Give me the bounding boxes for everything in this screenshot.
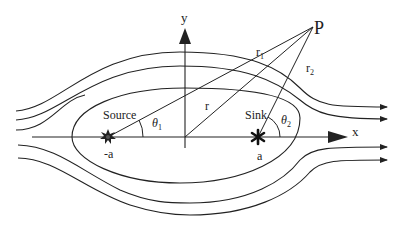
streamline-bottom-outer [18, 158, 387, 215]
sink-position-label: a [257, 149, 263, 163]
streamline-top-inner [16, 66, 387, 120]
streamline-bottom-inner [18, 145, 387, 203]
point-p-label: P [314, 18, 324, 38]
y-axis-label: y [181, 10, 188, 25]
r1-label: r1 [256, 45, 264, 61]
theta2-label: θ2 [281, 113, 291, 129]
angle-theta1-arc [139, 120, 143, 137]
x-axis-label: x [352, 124, 359, 139]
streamline-top-outer [16, 52, 387, 111]
angle-theta2-arc [268, 117, 280, 137]
r2-label: r2 [306, 61, 314, 77]
source-position-label: -a [104, 147, 114, 161]
r-label: r [205, 99, 209, 113]
sink-label: Sink [245, 108, 267, 122]
rankine-oval-diagram: y x P r1 r2 r Source Sink θ1 θ2 -a a [0, 0, 408, 232]
theta1-label: θ1 [152, 116, 162, 132]
source-label: Source [103, 108, 136, 122]
